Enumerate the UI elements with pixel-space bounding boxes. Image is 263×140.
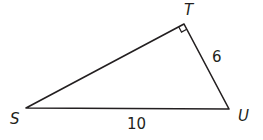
vertex-label-u: U [238, 107, 249, 125]
vertex-label-t: T [184, 1, 195, 19]
vertex-label-s: S [10, 110, 20, 128]
side-label-su: 10 [127, 115, 146, 133]
side-label-tu: 6 [212, 48, 222, 66]
triangle-stu [26, 24, 229, 109]
triangle-diagram: T S U 6 10 [0, 0, 263, 140]
